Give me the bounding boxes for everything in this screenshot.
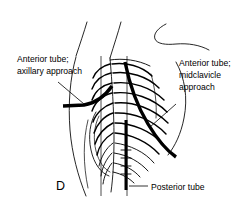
rib-anterior-10 xyxy=(114,153,148,171)
left-arm-contour xyxy=(76,22,87,56)
label-posterior-line1: Posterior tube xyxy=(151,182,205,192)
rib-posterior-1 xyxy=(93,64,110,78)
axillary-fold-contour xyxy=(110,22,121,58)
label-posterior: Posterior tube xyxy=(151,182,205,192)
chest-tube-figure: Anterior tube; axillary approach Anterio… xyxy=(0,0,252,203)
anatomical-illustration: Anterior tube; axillary approach Anterio… xyxy=(0,0,252,203)
leader-lines-group xyxy=(58,82,176,186)
label-anterior-axillary-line2: axillary approach xyxy=(17,66,82,76)
rib-anterior-2 xyxy=(113,73,159,88)
left-body-wall-contour xyxy=(69,57,86,196)
neck-shoulder-contour xyxy=(155,24,209,50)
label-anterior-axillary: Anterior tube; axillary approach xyxy=(17,54,82,76)
panel-letter-label: D xyxy=(56,179,65,193)
left-flank-contour xyxy=(84,120,88,188)
label-anterior-midclavicle-line1: Anterior tube; xyxy=(179,58,231,68)
label-anterior-midclavicle: Anterior tube; midclavicle approach xyxy=(179,58,231,92)
label-anterior-midclavicle-line3: approach xyxy=(179,82,215,92)
rib-anterior-8 xyxy=(115,133,159,154)
label-anterior-midclavicle-line2: midclavicle xyxy=(179,70,221,80)
leader-line-axillary xyxy=(58,82,84,104)
label-anterior-axillary-line1: Anterior tube; xyxy=(17,54,69,64)
chest-tubes-group xyxy=(63,62,176,190)
